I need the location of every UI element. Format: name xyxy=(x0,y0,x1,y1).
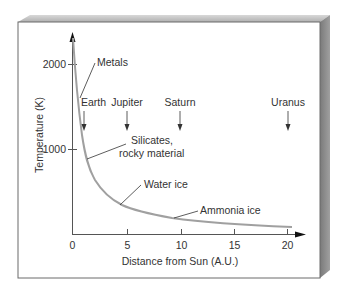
frame-side-bevel xyxy=(320,15,330,278)
earth-label: Earth xyxy=(81,96,106,108)
silicates-label-line1: Silicates, xyxy=(131,134,173,146)
ytick-1000-label: 1000 xyxy=(43,143,67,155)
saturn-label: Saturn xyxy=(165,96,196,108)
x-axis-title: Distance from Sun (A.U.) xyxy=(122,255,239,267)
xtick-10-label: 10 xyxy=(176,239,188,251)
silicates-label-line2: rocky material xyxy=(119,147,184,159)
water-ice-label: Water ice xyxy=(144,178,188,190)
chart-figure: 2000 1000 0 5 10 15 20 Distance from Sun… xyxy=(0,0,346,290)
jupiter-label: Jupiter xyxy=(111,96,143,108)
ammonia-ice-label: Ammonia ice xyxy=(200,204,261,216)
frame-top-bevel xyxy=(18,15,330,22)
xtick-15-label: 15 xyxy=(229,239,241,251)
y-axis-title: Temperature (K) xyxy=(33,97,45,173)
uranus-label: Uranus xyxy=(271,96,305,108)
ytick-2000-label: 2000 xyxy=(43,58,67,70)
xtick-0-label: 0 xyxy=(70,239,76,251)
metals-label: Metals xyxy=(97,56,128,68)
xtick-5-label: 5 xyxy=(125,239,131,251)
xtick-20-label: 20 xyxy=(282,239,294,251)
